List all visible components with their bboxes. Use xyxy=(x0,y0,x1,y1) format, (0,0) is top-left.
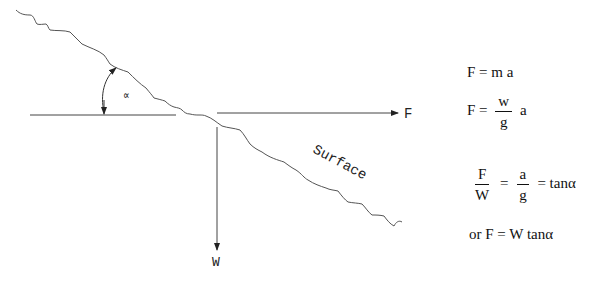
force-f-label: F xyxy=(404,106,412,122)
eq3-equals-2: = xyxy=(537,175,545,191)
eq4-text: or F = W tanα xyxy=(469,226,553,242)
eq3-mid-fraction: a g xyxy=(516,166,530,204)
equation-f-w-over-g: F = w g a xyxy=(467,93,527,131)
eq3-mid-denominator: g xyxy=(516,185,530,204)
equation-ratio-tan-alpha: F W = a g = tanα xyxy=(472,166,576,204)
eq1-rhs: m a xyxy=(491,64,513,80)
eq3-rhs: tanα xyxy=(550,175,576,191)
angle-arc xyxy=(103,68,117,112)
surface-label: Surface xyxy=(310,141,369,183)
equation-f-equals-w-tan-alpha: or F = W tanα xyxy=(469,226,553,243)
eq2-equals: = xyxy=(479,102,487,118)
eq3-lhs-fraction: F W xyxy=(472,166,492,204)
eq2-denominator: g xyxy=(497,112,511,131)
eq1-lhs: F xyxy=(467,64,475,80)
inclined-surface-line xyxy=(16,10,402,226)
equation-newton-second-law: F = m a xyxy=(467,64,513,81)
angle-alpha-label: ∝ xyxy=(123,90,130,102)
eq1-equals: = xyxy=(479,64,487,80)
eq3-lhs-numerator: F xyxy=(475,166,489,185)
eq3-lhs-denominator: W xyxy=(472,185,492,204)
weight-w-label: W xyxy=(212,255,220,270)
eq2-lhs: F xyxy=(467,102,475,118)
eq3-equals-1: = xyxy=(500,175,508,191)
eq3-mid-numerator: a xyxy=(517,166,530,185)
eq2-numerator: w xyxy=(495,93,512,112)
eq2-rhs: a xyxy=(520,102,527,118)
eq2-fraction: w g xyxy=(495,93,512,131)
